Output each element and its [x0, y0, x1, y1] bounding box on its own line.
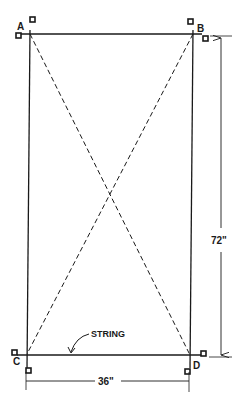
stake-icon [16, 33, 21, 38]
left-string-line [27, 30, 30, 368]
corner-label-b: B [197, 23, 204, 34]
corner-label-a: A [17, 21, 24, 32]
layout-diagram: A B C D 72" 36" STRING [0, 0, 239, 401]
stake-icon [12, 350, 17, 355]
stake-icon [26, 368, 31, 373]
corner-label-c: C [13, 356, 20, 367]
stake-icon [201, 351, 206, 356]
width-dimension-label: 36" [98, 376, 114, 387]
right-string-line [190, 30, 193, 368]
stake-icon [30, 17, 35, 22]
string-label: STRING [91, 329, 125, 339]
height-dimension-label: 72" [211, 235, 227, 246]
diagonal-bc [27, 34, 193, 354]
corner-label-d: D [193, 360, 200, 371]
stake-icon [203, 36, 208, 41]
stake-icon [188, 19, 193, 24]
